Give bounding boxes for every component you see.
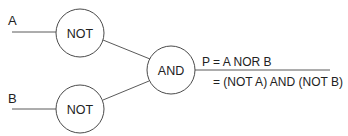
nor-circuit-diagram: A B NOT NOT AND P = A NOR B = (NOT A) AN… [0,0,348,136]
output-equation-line1: P = A NOR B [202,55,271,69]
not-gate-1-label: NOT [67,27,94,41]
wire-not2-to-and [103,81,149,100]
input-label-b: B [8,91,17,106]
and-gate: AND [147,46,195,94]
output-equation-line2: = (NOT A) AND (NOT B) [213,75,343,89]
input-label-a: A [8,13,17,28]
not-gate-2-label: NOT [67,103,94,117]
and-gate-label: AND [158,64,184,78]
not-gate-1: NOT [56,9,104,57]
not-gate-2: NOT [56,85,104,133]
wire-not1-to-and [103,40,150,59]
